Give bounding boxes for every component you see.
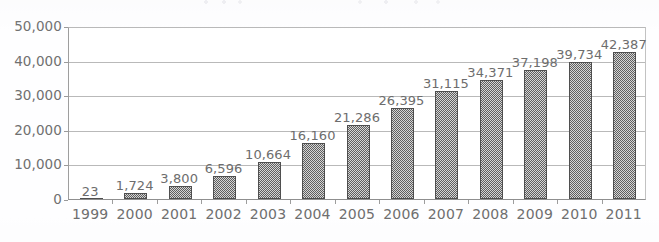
bar — [569, 62, 592, 199]
x-tick-mark — [290, 200, 291, 204]
bar — [213, 176, 236, 199]
x-tick-label: 1999 — [68, 206, 112, 222]
x-tick-label: 2007 — [424, 206, 468, 222]
bar-chart-figure: 50,00040,00030,00020,00010,0000 231,7243… — [0, 0, 659, 242]
bar — [347, 125, 370, 199]
x-tick-mark — [379, 200, 380, 204]
bar-value-label: 42,387 — [594, 38, 654, 51]
x-tick-label: 2001 — [157, 206, 201, 222]
x-tick-label: 2004 — [290, 206, 334, 222]
x-tick-mark — [468, 200, 469, 204]
x-tick-mark — [112, 200, 113, 204]
bar-value-label: 16,160 — [283, 129, 343, 142]
x-tick-mark — [246, 200, 247, 204]
x-tick-label: 2008 — [468, 206, 512, 222]
x-tick-mark — [513, 200, 514, 204]
y-tick-label: 0 — [0, 193, 62, 207]
y-tick-label: 10,000 — [0, 158, 62, 172]
bar-value-label: 26,395 — [371, 94, 431, 107]
bar — [169, 186, 192, 199]
x-tick-label: 2011 — [602, 206, 646, 222]
cropped-title-remnant — [200, 0, 460, 5]
x-tick-mark — [424, 200, 425, 204]
bar — [480, 80, 503, 199]
bar-value-label: 21,286 — [327, 111, 387, 124]
x-axis: 1999200020012002200320042005200620072008… — [68, 206, 646, 232]
bar — [524, 70, 547, 199]
y-tick-mark — [64, 27, 68, 28]
y-axis: 50,00040,00030,00020,00010,0000 — [0, 0, 62, 242]
x-tick-mark — [557, 200, 558, 204]
x-tick-label: 2002 — [201, 206, 245, 222]
gridline — [69, 96, 645, 97]
x-tick-mark — [602, 200, 603, 204]
x-tick-mark — [201, 200, 202, 204]
y-tick-label: 30,000 — [0, 89, 62, 103]
x-tick-label: 2000 — [112, 206, 156, 222]
gridline — [69, 27, 645, 28]
bar — [391, 108, 414, 199]
bar-value-label: 6,596 — [194, 162, 254, 175]
x-tick-mark — [157, 200, 158, 204]
bar — [613, 52, 636, 199]
y-tick-mark — [64, 165, 68, 166]
y-tick-mark — [64, 96, 68, 97]
y-tick-label: 50,000 — [0, 20, 62, 34]
x-tick-mark — [335, 200, 336, 204]
y-tick-label: 40,000 — [0, 55, 62, 69]
x-tick-label: 2006 — [379, 206, 423, 222]
y-tick-mark — [64, 200, 68, 201]
x-tick-label: 2009 — [513, 206, 557, 222]
x-tick-label: 2005 — [335, 206, 379, 222]
bar — [435, 91, 458, 199]
bar — [302, 143, 325, 199]
bar-value-label: 10,664 — [238, 148, 298, 161]
bar — [124, 193, 147, 199]
y-tick-mark — [64, 62, 68, 63]
x-tick-label: 2010 — [557, 206, 601, 222]
x-tick-label: 2003 — [246, 206, 290, 222]
y-tick-mark — [64, 131, 68, 132]
bar — [258, 162, 281, 199]
y-tick-label: 20,000 — [0, 124, 62, 138]
